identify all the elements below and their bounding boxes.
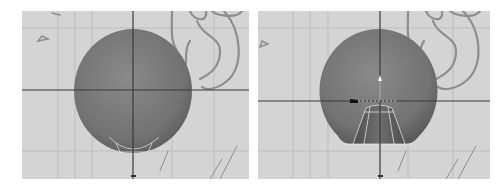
origin-marker xyxy=(131,175,136,177)
viewport-right[interactable] xyxy=(258,11,490,179)
viewport-left-canvas xyxy=(22,11,249,179)
viewport-left[interactable] xyxy=(22,11,249,179)
viewport-right-canvas xyxy=(258,11,490,179)
origin-marker xyxy=(378,175,383,177)
